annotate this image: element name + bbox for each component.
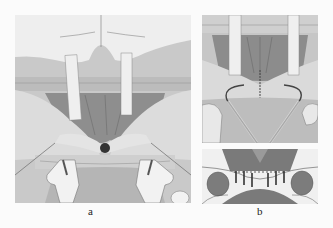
cross-section-illustration-b — [202, 149, 318, 204]
surgical-illustration-a — [15, 15, 191, 203]
illustration-panel-a — [15, 15, 191, 203]
illustration-panel-b-upper — [202, 15, 318, 143]
illustration-panel-b-section — [202, 149, 318, 204]
panel-label-b: b — [257, 205, 263, 217]
panel-label-a: a — [88, 205, 93, 217]
surgical-illustration-b-upper — [202, 15, 318, 143]
